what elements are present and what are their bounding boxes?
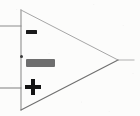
part-label-chip xyxy=(26,59,55,67)
opamp-schematic-canvas xyxy=(0,0,140,116)
plus-vertical-bar xyxy=(31,79,35,95)
opamp-symbol-screenshot xyxy=(0,0,140,116)
plus-sign-icon xyxy=(25,79,41,95)
junction-dot xyxy=(20,55,23,58)
opamp-body-upper-edge xyxy=(21,10,118,60)
minus-sign-icon xyxy=(26,30,37,34)
